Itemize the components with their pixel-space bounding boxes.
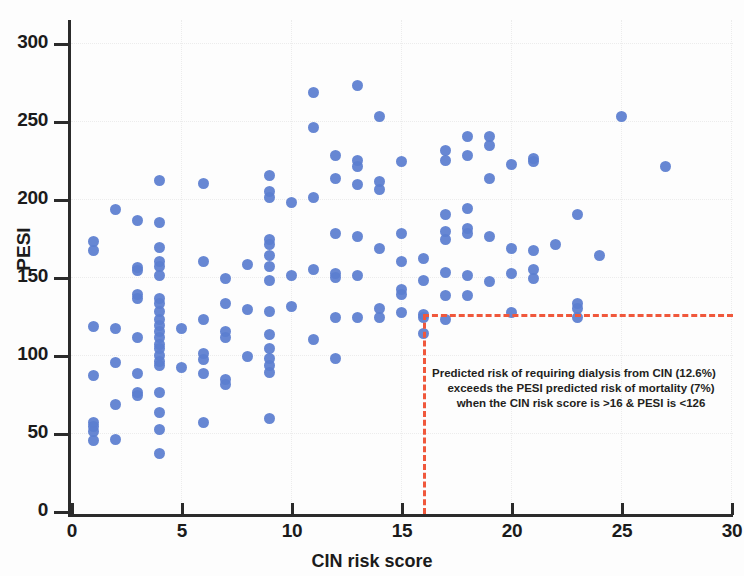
data-point (264, 275, 275, 286)
data-point (352, 161, 363, 172)
data-point (616, 111, 627, 122)
data-point (330, 353, 341, 364)
data-point (154, 407, 165, 418)
x-axis-tick (511, 503, 514, 515)
data-point (176, 362, 187, 373)
data-point (440, 267, 451, 278)
data-point (550, 239, 561, 250)
y-axis-tick (54, 121, 68, 124)
data-point (330, 312, 341, 323)
data-point (396, 156, 407, 167)
data-point (220, 332, 231, 343)
data-point (506, 159, 517, 170)
data-point (242, 304, 253, 315)
data-point (352, 312, 363, 323)
y-axis-tick (54, 511, 68, 514)
x-axis-tick (731, 503, 734, 515)
annotation-textbox: Predicted risk of requiring dialysis fro… (430, 366, 732, 411)
data-point (330, 150, 341, 161)
data-point (154, 387, 165, 398)
y-axis-tick-label: 100 (0, 343, 48, 365)
y-axis-tick-label: 150 (0, 265, 48, 287)
data-point (418, 275, 429, 286)
y-axis-tick (54, 199, 68, 202)
y-axis-tick (54, 355, 68, 358)
x-axis-tick (401, 503, 404, 515)
data-point (484, 173, 495, 184)
data-point (308, 264, 319, 275)
data-point (462, 150, 473, 161)
data-point (154, 424, 165, 435)
gridline-vertical (511, 20, 513, 514)
data-point (220, 298, 231, 309)
data-point (286, 270, 297, 281)
data-point (352, 179, 363, 190)
x-axis-tick (291, 503, 294, 515)
data-point (264, 192, 275, 203)
data-point (374, 312, 385, 323)
y-axis-tick-label: 0 (0, 499, 48, 521)
data-point (462, 270, 473, 281)
data-point (132, 215, 143, 226)
data-point (308, 192, 319, 203)
data-point (352, 231, 363, 242)
data-point (528, 245, 539, 256)
data-point (154, 217, 165, 228)
x-axis-tick-label: 25 (602, 520, 642, 542)
data-point (110, 204, 121, 215)
data-point (308, 87, 319, 98)
vertical-reference-line (423, 314, 426, 514)
data-point (506, 243, 517, 254)
data-point (110, 357, 121, 368)
data-point (198, 178, 209, 189)
scatter-plot-figure: PESI CIN risk score 05010015020025030005… (0, 0, 744, 576)
data-point (132, 265, 143, 276)
data-point (110, 323, 121, 334)
data-point (154, 242, 165, 253)
annotation-line-1: Predicted risk of requiring dialysis fro… (432, 366, 732, 381)
gridline-vertical (401, 20, 403, 514)
data-point (110, 399, 121, 410)
data-point (198, 368, 209, 379)
annotation-line-3: when the CIN risk score is >16 & PESI is… (430, 396, 732, 411)
gridline-vertical (731, 20, 733, 514)
data-point (88, 435, 99, 446)
data-point (132, 332, 143, 343)
data-point (88, 321, 99, 332)
data-point (198, 354, 209, 365)
data-point (396, 256, 407, 267)
x-axis-tick-label: 0 (52, 520, 92, 542)
data-point (594, 250, 605, 261)
gridline-vertical (181, 20, 183, 514)
data-point (374, 243, 385, 254)
data-point (132, 390, 143, 401)
data-point (264, 306, 275, 317)
data-point (264, 250, 275, 261)
y-axis-tick-label: 200 (0, 187, 48, 209)
data-point (418, 253, 429, 264)
data-point (374, 111, 385, 122)
data-point (264, 329, 275, 340)
x-axis-tick (71, 503, 74, 515)
plot-area (71, 20, 733, 514)
data-point (242, 259, 253, 270)
x-axis-tick-label: 10 (272, 520, 312, 542)
data-point (352, 270, 363, 281)
data-point (462, 228, 473, 239)
x-axis-tick (181, 503, 184, 515)
y-axis-tick-label: 250 (0, 109, 48, 131)
data-point (132, 368, 143, 379)
data-point (308, 122, 319, 133)
gridline-vertical (291, 20, 293, 514)
y-axis-tick-label: 300 (0, 31, 48, 53)
data-point (330, 173, 341, 184)
data-point (198, 417, 209, 428)
data-point (462, 290, 473, 301)
data-point (440, 290, 451, 301)
data-point (176, 323, 187, 334)
data-point (330, 272, 341, 283)
data-point (154, 360, 165, 371)
data-point (220, 379, 231, 390)
x-axis-tick-label: 5 (162, 520, 202, 542)
data-point (286, 197, 297, 208)
